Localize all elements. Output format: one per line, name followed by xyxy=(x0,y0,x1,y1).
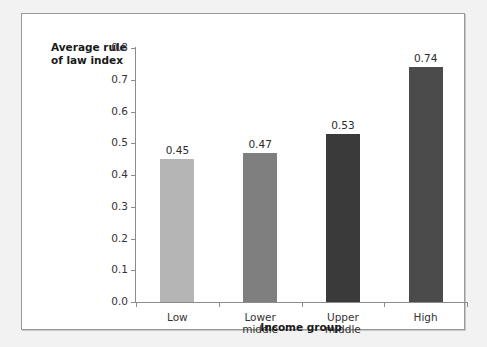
x-axis-tick-mark xyxy=(384,302,385,307)
bar-group: 0.47Lower middle xyxy=(219,48,302,302)
bar-value-label: 0.74 xyxy=(414,52,437,64)
bar: 0.45 xyxy=(160,159,194,302)
bar: 0.53 xyxy=(326,134,360,302)
x-axis-tick-mark xyxy=(136,302,137,307)
y-axis-tick-label: 0.4 xyxy=(111,168,128,181)
bar-group: 0.74High xyxy=(384,48,467,302)
bar-value-label: 0.47 xyxy=(248,138,271,150)
x-axis-tick-mark xyxy=(467,302,468,307)
figure-frame: Average rule of law index 0.80.70.60.50.… xyxy=(21,13,465,330)
chart-screenshot: Average rule of law index 0.80.70.60.50.… xyxy=(0,0,487,347)
x-axis-title: Income group xyxy=(135,321,467,333)
y-axis-tick-label: 0.8 xyxy=(111,41,128,54)
bar: 0.47 xyxy=(243,153,277,302)
x-axis-tick-mark xyxy=(219,302,220,307)
y-axis-tick-label: 0.1 xyxy=(111,263,128,276)
y-axis-tick-label: 0.0 xyxy=(111,295,128,308)
y-axis-tick-label: 0.6 xyxy=(111,105,128,118)
bar-value-label: 0.53 xyxy=(331,119,354,131)
y-axis-tick-label: 0.7 xyxy=(111,73,128,86)
x-axis-tick-mark xyxy=(302,302,303,307)
plot-area: 0.80.70.60.50.40.30.20.10.0 0.45Low0.47L… xyxy=(136,48,467,302)
y-axis-tick-label: 0.3 xyxy=(111,200,128,213)
bar-group: 0.53Upper middle xyxy=(302,48,385,302)
bar-group: 0.45Low xyxy=(136,48,219,302)
y-axis-tick-label: 0.2 xyxy=(111,232,128,245)
bar-value-label: 0.45 xyxy=(166,144,189,156)
bar: 0.74 xyxy=(409,67,443,302)
y-axis-tick-label: 0.5 xyxy=(111,136,128,149)
